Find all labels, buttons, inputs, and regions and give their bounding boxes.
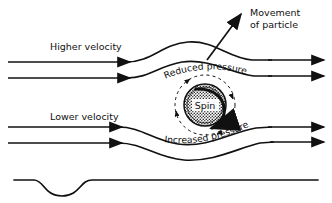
movement-label-line1: Movement [250,7,301,18]
wall-with-dip [14,180,318,196]
lower-velocity-label: Lower velocity [50,111,119,122]
streamline-lower-outer [8,142,324,160]
movement-arrow [207,14,241,60]
diagram-canvas: Spin Reduced pressure Increased pressure… [0,0,332,203]
movement-label-line2: of particle [250,19,298,30]
magnus-effect-diagram: Spin Reduced pressure Increased pressure… [0,0,332,203]
spin-label: Spin [195,100,216,111]
spinning-particle: Spin [184,84,226,128]
higher-velocity-label: Higher velocity [50,41,122,52]
